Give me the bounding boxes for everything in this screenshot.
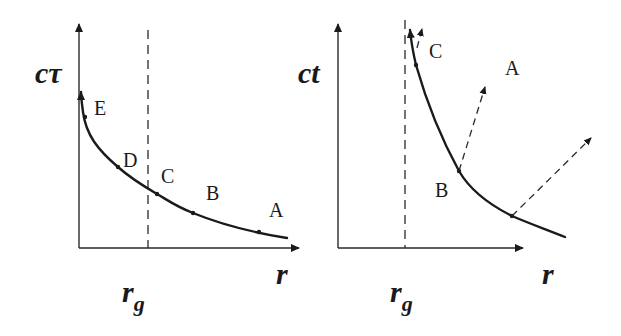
left-point-C-marker (155, 192, 159, 196)
left-point-B-marker (191, 211, 195, 215)
light-ray-from-A (512, 138, 591, 216)
left-x-axis-label: r (276, 257, 288, 290)
right-panel-coordinate-time: ct r rg C A B (298, 20, 591, 316)
left-point-D-label: D (123, 149, 137, 171)
left-point-C-label: C (161, 165, 174, 187)
left-point-E-marker (83, 115, 87, 119)
spacetime-diagram-figure: cτ r rg E D C B A ct r rg C A B (0, 0, 621, 336)
right-point-A-label: A (505, 57, 520, 79)
right-point-C-label: C (429, 40, 442, 62)
left-point-A-label: A (269, 199, 284, 221)
right-y-axis-label: ct (298, 56, 321, 89)
left-point-A-marker (257, 230, 261, 234)
left-y-axis-label: cτ (35, 56, 63, 89)
right-point-C-marker (414, 63, 418, 67)
light-ray-from-B (459, 87, 485, 171)
left-point-B-label: B (206, 182, 219, 204)
left-point-E-label: E (94, 97, 106, 119)
left-rg-label-sub: g (133, 291, 145, 316)
left-infall-worldline (81, 92, 287, 238)
right-x-axis-label: r (542, 257, 554, 290)
left-point-D-marker (116, 165, 120, 169)
left-rg-label-main: r (122, 275, 134, 308)
light-ray-from-C (417, 29, 422, 48)
left-panel-proper-time: cτ r rg E D C B A (35, 24, 299, 316)
right-point-B-label: B (435, 179, 448, 201)
right-rg-label-main: r (390, 275, 402, 308)
right-rg-label-sub: g (401, 291, 413, 316)
right-rg-label: rg (390, 275, 413, 316)
left-rg-label: rg (122, 275, 145, 316)
